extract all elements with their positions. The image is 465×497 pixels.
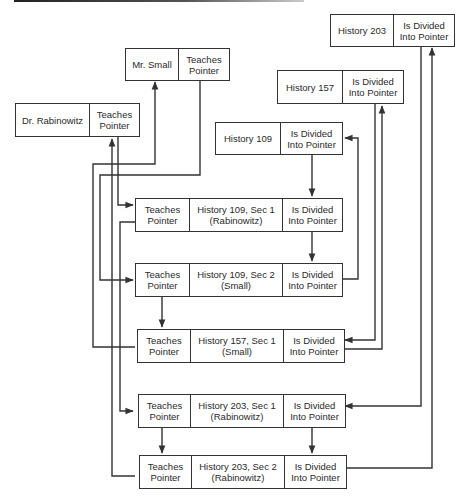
course-name: History 203 — [331, 15, 393, 46]
is-divided-into-pointer: Is Divided Into Pointer — [282, 199, 342, 231]
course-record-history-109: History 109 Is Divided Into Pointer — [215, 122, 343, 155]
course-name: History 157 — [278, 71, 342, 103]
instructor-name: Mr. Small — [126, 49, 178, 80]
is-divided-into-pointer: Is Divided Into Pointer — [393, 15, 454, 46]
is-divided-into-pointer: Is Divided Into Pointer — [282, 264, 342, 296]
teaches-pointer: Teaches Pointer — [138, 330, 190, 362]
teaches-pointer: Teaches Pointer — [139, 395, 190, 427]
section-name: History 203, Sec 2 (Rabinowitz) — [191, 456, 284, 488]
link-203s2-to-rabinowitz — [112, 139, 135, 476]
instructor-record-dr-rabinowitz: Dr. Rabinowitz Teaches Pointer — [15, 103, 140, 137]
is-divided-into-pointer: Is Divided Into Pointer — [283, 330, 344, 362]
teaches-pointer: Teaches Pointer — [140, 456, 191, 488]
course-name: History 109 — [216, 123, 280, 154]
section-name: History 203, Sec 1 (Rabinowitz) — [190, 395, 283, 427]
section-record-109-1: Teaches Pointer History 109, Sec 1 (Rabi… — [135, 198, 343, 232]
instructor-record-mr-small: Mr. Small Teaches Pointer — [125, 48, 230, 81]
section-name: History 109, Sec 2 (Small) — [189, 264, 282, 296]
link-h157-to-157s1 — [345, 104, 375, 340]
teaches-pointer: Teaches Pointer — [136, 199, 189, 231]
teaches-pointer: Teaches Pointer — [89, 104, 139, 136]
course-record-history-157: History 157 Is Divided Into Pointer — [277, 70, 404, 104]
is-divided-into-pointer: Is Divided Into Pointer — [342, 71, 403, 103]
section-record-157-1: Teaches Pointer History 157, Sec 1 (Smal… — [137, 329, 345, 363]
link-109s1-to-203s1 — [120, 222, 135, 411]
teaches-pointer: Teaches Pointer — [178, 49, 229, 80]
section-record-203-2: Teaches Pointer History 203, Sec 2 (Rabi… — [139, 455, 347, 489]
course-record-history-203: History 203 Is Divided Into Pointer — [330, 14, 455, 47]
is-divided-into-pointer: Is Divided Into Pointer — [283, 395, 345, 427]
instructor-name: Dr. Rabinowitz — [16, 104, 89, 136]
link-203s2-to-h203 — [343, 48, 432, 468]
section-name: History 157, Sec 1 (Small) — [190, 330, 283, 362]
section-name: History 109, Sec 1 (Rabinowitz) — [189, 199, 282, 231]
section-record-109-2: Teaches Pointer History 109, Sec 2 (Smal… — [135, 263, 343, 297]
link-rabinowitz-to-109s1 — [118, 137, 133, 205]
is-divided-into-pointer: Is Divided Into Pointer — [284, 456, 346, 488]
link-157s1-to-h157 — [343, 106, 382, 349]
section-record-203-1: Teaches Pointer History 203, Sec 1 (Rabi… — [138, 394, 346, 428]
link-109s2-to-h109 — [343, 138, 358, 279]
teaches-pointer: Teaches Pointer — [136, 264, 189, 296]
is-divided-into-pointer: Is Divided Into Pointer — [280, 123, 342, 154]
